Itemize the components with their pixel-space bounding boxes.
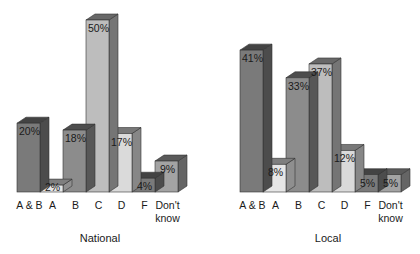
category-tick-label: know [378,212,403,224]
data-label: 33% [288,80,309,92]
bar-side-face [178,155,187,192]
data-label: 5% [383,177,398,189]
bar-side-face [332,58,341,192]
category-tick-label: Don't [155,199,179,211]
data-label: 50% [88,22,109,34]
bar-front-face [240,50,263,192]
category-tick-label: B [295,199,302,211]
data-label: 8% [268,166,283,178]
category-tick-label: Don't [378,199,402,211]
category-tick-label: know [155,212,180,224]
data-label: 9% [160,163,175,175]
local-chart: 41%8%33%37%12%5%5%A & BABCDFDon'tknowLoc… [239,44,410,244]
category-tick-label: A [49,199,56,211]
category-tick-label: F [141,199,147,211]
category-tick-label: D [118,199,126,211]
category-tick-label: A & B [16,199,42,211]
chart-title: Local [315,232,341,244]
category-tick-label: C [318,199,326,211]
data-label: 17% [111,136,132,148]
data-label: 20% [19,125,40,137]
charts-canvas: 20%2%18%50%17%4%9%A & BABCDFDon'tknowNat… [0,0,420,254]
bar-side-face [309,72,318,192]
category-tick-label: A & B [239,199,265,211]
national-chart: 20%2%18%50%17%4%9%A & BABCDFDon'tknowNat… [16,14,187,244]
category-tick-label: F [364,199,370,211]
data-label: 5% [360,177,375,189]
category-tick-label: C [95,199,103,211]
data-label: 18% [65,132,86,144]
chart-title: National [80,232,120,244]
data-label: 2% [45,181,60,193]
data-label: 4% [137,180,152,192]
data-label: 37% [311,66,332,78]
bar-side-face [109,14,118,192]
data-label: 12% [334,152,355,164]
category-tick-label: B [72,199,79,211]
data-label: 41% [242,52,263,64]
bar-side-face [86,124,95,192]
category-tick-label: D [341,199,349,211]
category-tick-label: A [272,199,279,211]
